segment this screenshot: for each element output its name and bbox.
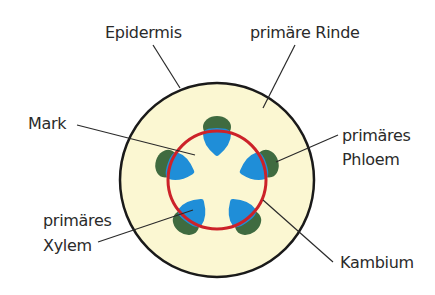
label-xylem-line2: Xylem (43, 234, 92, 258)
label-primaere-rinde: primäre Rinde (250, 21, 360, 45)
label-phloem-line1: primäres (342, 124, 411, 148)
epidermis-circle (120, 83, 314, 277)
label-mark: Mark (28, 112, 66, 136)
label-kambium: Kambium (340, 251, 414, 275)
leader-epidermis (153, 45, 180, 88)
label-epidermis: Epidermis (105, 21, 182, 45)
label-phloem-line2: Phloem (342, 148, 400, 172)
label-xylem-line1: primäres (43, 209, 112, 233)
leader-rinde (263, 45, 295, 108)
